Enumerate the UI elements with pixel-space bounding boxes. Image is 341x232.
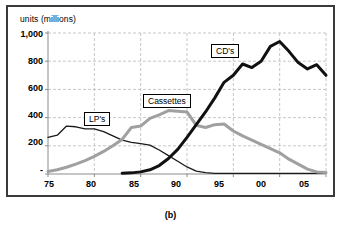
x-tick-label: 90 (163, 179, 189, 189)
y-tick-label: 800 (9, 56, 43, 66)
y-tick-label: 1,000 (9, 29, 43, 39)
x-tick-label: 00 (248, 179, 274, 189)
y-tick-label: 200 (9, 137, 43, 147)
y-tick-label: 400 (9, 110, 43, 120)
x-tick-label: 95 (206, 179, 232, 189)
figure-container: units (millions) 1,000 800 600 400 200 -… (0, 0, 341, 232)
series-label-cassettes: Cassettes (143, 94, 191, 108)
x-tick-label: 80 (78, 179, 104, 189)
x-tick-label: 75 (36, 179, 62, 189)
y-tick-label: 600 (9, 83, 43, 93)
series-label-lp: LP's (84, 112, 110, 126)
y-tick-label: - (9, 165, 43, 175)
x-tick-label: 05 (291, 179, 317, 189)
series-label-cds: CD's (211, 44, 239, 58)
x-tick-label: 85 (121, 179, 147, 189)
figure-caption: (b) (0, 210, 341, 220)
chart-plot-region: units (millions) 1,000 800 600 400 200 -… (8, 7, 333, 195)
chart-frame: units (millions) 1,000 800 600 400 200 -… (6, 5, 335, 197)
